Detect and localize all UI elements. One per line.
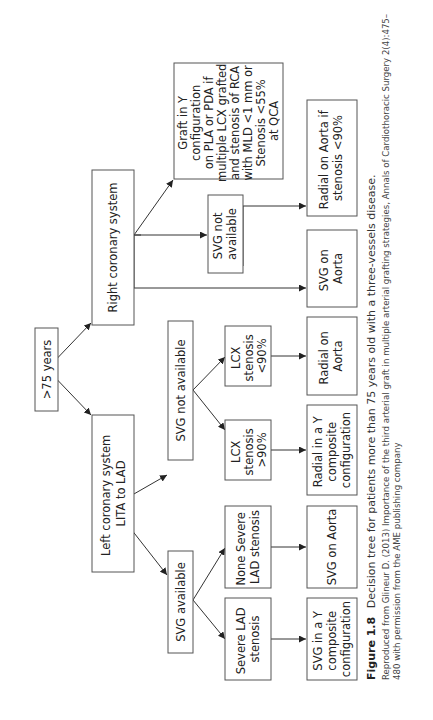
node-label: Radial on — [317, 331, 331, 385]
node-label: multiple LCX grafted — [215, 64, 229, 182]
node-label: SVG on Aorta — [325, 509, 339, 586]
node-label: configuration — [339, 412, 353, 488]
svg-text:Figure 1.8 Decision tree: Figure 1.8 Decision tree for patients mo… — [365, 174, 378, 680]
node-label: Radial on Aorta if — [317, 109, 331, 209]
node-label: stenosis — [242, 428, 256, 475]
edge-svgnot-lcxlt — [193, 357, 225, 390]
node-label: SVG not available — [174, 339, 188, 441]
edge-svgavail-severe — [193, 600, 225, 639]
node-label: >75 years — [40, 340, 54, 400]
svg-text:SVG not available: SVG not available — [211, 208, 239, 260]
node-label: configuration — [339, 601, 353, 677]
node-right-svg-on-aorta: SVG on Aorta — [307, 230, 357, 307]
node-label: on PLA or PDA if — [202, 75, 216, 169]
figure-label: Figure 1.8 — [365, 617, 378, 680]
node-none-severe-lad: None Severe LAD stenosis — [225, 506, 271, 588]
edge-svgavail-none — [193, 548, 225, 600]
node-radial-aorta-if: Radial on Aorta if stenosis <90% — [307, 100, 357, 216]
rotated-figure: >75 years Right coronary system Left cor… — [0, 0, 433, 720]
node-label: Aorta — [331, 341, 345, 372]
node-severe-lad: Severe LAD stenosis — [225, 598, 271, 680]
svg-text:>75 years: >75 years — [40, 340, 54, 400]
node-label: LCX — [229, 441, 243, 463]
edge-svgnot-radialif — [243, 206, 306, 266]
node-label: None Severe — [234, 512, 248, 585]
node-label: with MLD <1 mm or — [241, 65, 255, 181]
node-label: Graft in Y — [176, 95, 190, 150]
node-label: Stenosis <55% — [254, 79, 268, 166]
node-left-svg-on-aorta: SVG on Aorta — [307, 506, 357, 588]
node-label: stenosis — [242, 334, 256, 381]
node-left-coronary: Left coronary system LITA to LAD — [92, 415, 134, 572]
node-label: SVG not — [211, 212, 225, 259]
figure-caption: Figure 1.8 Decision tree for patients mo… — [365, 14, 402, 680]
node-label: at QCA — [267, 101, 281, 141]
figure-source-line-2: 480 with permission from the AME publish… — [392, 443, 402, 680]
node-label: composite — [325, 611, 339, 671]
node-lcx-gt90: LCX stenosis >90% — [225, 420, 271, 480]
node-label: Aorta — [331, 253, 345, 284]
edge-svgnot-lcxgt — [193, 390, 225, 430]
node-right-svg-not-available: SVG not available — [208, 195, 243, 273]
svg-text:SVG on Aorta: SVG on Aorta — [325, 509, 339, 586]
svg-text:Radial on Aorta if steno: Radial on Aorta if stenosis <90% — [317, 107, 345, 210]
node-root: >75 years — [35, 328, 58, 411]
node-label: configuration — [189, 85, 203, 161]
svg-text:SVG available: SVG available — [174, 562, 188, 642]
node-label: Radial in a Y — [311, 415, 325, 487]
node-left-svg-not-available: SVG not available — [168, 321, 193, 460]
node-radial-in-y: Radial in a Y composite configuration — [307, 405, 357, 495]
node-label: stenosis <90% — [331, 115, 345, 201]
node-label: composite — [325, 422, 339, 482]
node-svg-in-y: SVG in a Y composite configuration — [307, 598, 357, 680]
svg-text:Right coronary system: Right coronary system — [106, 183, 120, 313]
node-left-svg-available: SVG available — [168, 551, 193, 653]
svg-text:SVG not available: SVG not available — [174, 339, 188, 441]
node-label: >90% — [255, 432, 269, 467]
node-label: SVG on — [317, 249, 331, 291]
node-label: Right coronary system — [106, 183, 120, 313]
node-label: stenosis — [248, 615, 262, 662]
node-lcx-lt90: LCX stenosis <90% — [225, 326, 271, 386]
node-label: SVG available — [174, 562, 188, 642]
figure-source-line-1: Reproduced from Glineur D. (2013) Import… — [381, 14, 391, 680]
node-label: LITA to LAD — [114, 460, 128, 526]
node-label: and stenosis of RCA — [228, 66, 242, 180]
node-label: Severe LAD — [234, 607, 248, 674]
node-label: available — [225, 208, 239, 260]
node-left-radial-on-aorta: Radial on Aorta — [307, 317, 357, 395]
svg-text:SVG in a Y composite: SVG in a Y composite configuration — [311, 601, 353, 677]
figure-title: Decision tree for patients more than 75 … — [365, 174, 378, 608]
node-label: LAD stenosis — [248, 510, 262, 584]
node-label: SVG in a Y — [311, 610, 325, 671]
node-right-coronary: Right coronary system — [92, 170, 134, 325]
edge-right-graft — [134, 180, 173, 235]
node-label: Left coronary system — [99, 435, 113, 556]
svg-text:None Severe LAD stenosis: None Severe LAD stenosis — [234, 508, 262, 585]
node-label: <90% — [255, 338, 269, 373]
svg-text:Radial in a Y composite: Radial in a Y composite configuration — [311, 412, 353, 488]
node-label: LCX — [229, 347, 243, 369]
decision-tree-diagram: >75 years Right coronary system Left cor… — [0, 0, 433, 720]
node-graft-in-y: Graft in Y configuration on PLA or PDA i… — [174, 60, 283, 182]
